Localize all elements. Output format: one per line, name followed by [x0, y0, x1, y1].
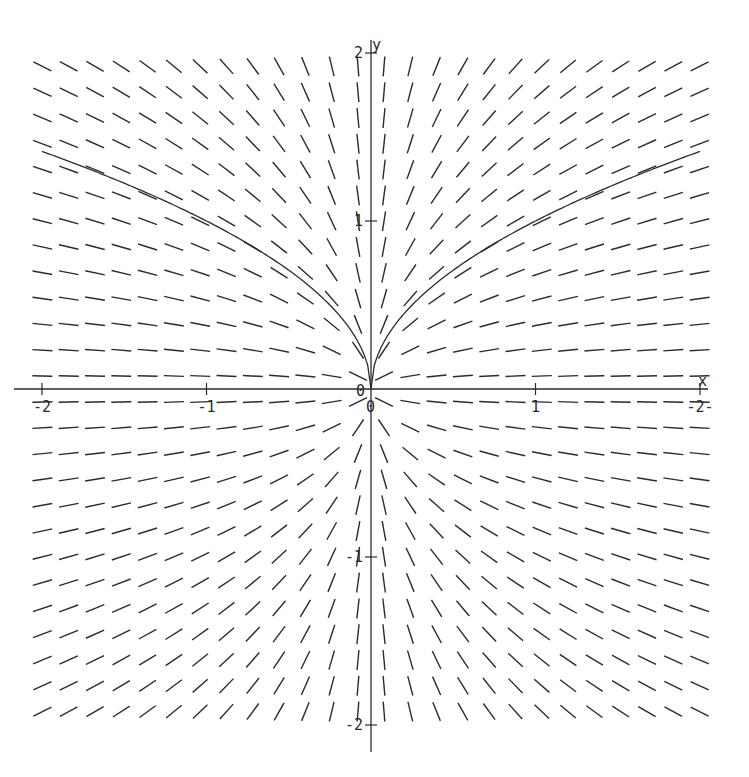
slope-mark	[534, 654, 550, 666]
slope-mark	[507, 190, 524, 201]
slope-mark	[611, 349, 631, 351]
slope-mark	[404, 472, 417, 487]
slope-mark	[534, 86, 549, 99]
slope-mark	[690, 245, 710, 249]
slope-mark	[664, 114, 682, 122]
slope-mark	[611, 528, 630, 533]
slope-mark	[664, 219, 683, 224]
slope-mark	[273, 110, 284, 127]
slope-mark	[59, 453, 79, 455]
slope-mark	[431, 161, 441, 178]
slope-mark	[453, 426, 473, 430]
slope-mark	[33, 631, 52, 638]
slope-mark	[111, 323, 131, 326]
slope-mark	[611, 427, 631, 429]
slope-mark	[217, 349, 237, 352]
slope-mark	[431, 574, 442, 591]
slope-mark	[246, 137, 260, 151]
slope-mark	[382, 211, 385, 231]
slope-mark	[383, 702, 385, 722]
slope-mark	[299, 524, 313, 539]
slope-mark	[533, 164, 550, 175]
slope-mark	[480, 501, 498, 510]
slope-mark	[382, 521, 386, 541]
slope-mark	[112, 630, 130, 639]
slope-mark	[85, 427, 105, 428]
slope-mark	[166, 86, 182, 98]
slope-mark	[165, 165, 182, 175]
slope-mark	[300, 161, 310, 178]
slope-mark	[33, 114, 51, 122]
slope-mark	[559, 270, 578, 276]
slope-mark	[612, 113, 630, 123]
slope-mark	[559, 604, 576, 614]
slope-mark	[138, 427, 158, 429]
slope-mark	[327, 238, 337, 255]
slope-mark	[165, 578, 183, 587]
slope-mark	[32, 427, 52, 428]
slope-mark	[139, 706, 155, 718]
slope-mark	[85, 452, 105, 454]
slope-mark	[165, 604, 182, 614]
slope-mark	[357, 108, 359, 128]
slope-mark	[112, 218, 131, 224]
slope-mark	[586, 706, 602, 718]
slope-mark	[383, 108, 385, 128]
slope-mark	[85, 323, 105, 325]
slope-mark	[480, 451, 499, 456]
slope-mark	[192, 603, 209, 614]
slope-mark	[535, 60, 550, 74]
slope-mark	[638, 166, 657, 173]
slope-mark	[383, 676, 385, 696]
slope-mark	[59, 605, 78, 612]
slope-mark	[33, 682, 51, 690]
slope-mark	[586, 680, 603, 691]
slope-mark	[192, 164, 209, 175]
slope-mark	[139, 629, 157, 639]
slope-mark	[584, 427, 604, 429]
slope-mark	[138, 528, 157, 534]
slope-mark	[193, 60, 208, 74]
slope-mark	[558, 296, 577, 300]
slope-mark	[165, 629, 182, 640]
origin-label-left: 0	[356, 382, 365, 400]
slope-mark	[302, 702, 310, 721]
slope-mark	[479, 375, 499, 376]
slope-mark	[637, 349, 657, 350]
slope-mark	[217, 322, 237, 326]
slope-mark	[430, 213, 442, 229]
slope-mark	[59, 323, 79, 325]
slope-mark	[533, 243, 551, 251]
slope-mark	[637, 554, 656, 560]
slope-mark	[85, 297, 105, 300]
slope-mark	[480, 295, 499, 302]
slope-mark	[165, 217, 183, 225]
slope-mark	[612, 604, 630, 612]
slope-mark	[138, 376, 158, 377]
slope-mark	[380, 444, 387, 463]
slope-mark	[533, 578, 550, 588]
slope-mark	[611, 244, 630, 249]
slope-mark	[456, 550, 471, 563]
slope-mark	[191, 243, 209, 251]
slope-mark	[245, 576, 260, 589]
slope-mark	[190, 452, 210, 456]
slope-mark	[269, 348, 289, 352]
slope-mark	[664, 630, 683, 638]
slope-mark	[138, 349, 158, 351]
slope-mark	[690, 219, 709, 224]
slope-mark	[559, 165, 576, 175]
slope-mark	[406, 212, 414, 230]
slope-mark	[480, 268, 498, 277]
slope-mark	[138, 244, 157, 250]
slope-mark	[560, 654, 576, 665]
slope-mark	[663, 453, 683, 455]
slope-mark	[217, 376, 237, 377]
slope-mark	[301, 677, 309, 695]
slope-mark	[584, 349, 604, 351]
slope-mark	[611, 579, 630, 586]
slope-mark	[59, 245, 78, 250]
slope-mark	[690, 297, 710, 300]
slope-mark	[585, 528, 604, 534]
slope-mark	[433, 677, 441, 695]
